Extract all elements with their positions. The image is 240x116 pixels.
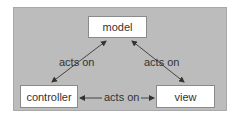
edge-label-controller-view: acts on	[102, 91, 141, 103]
edge-label-controller-model: acts on	[59, 56, 94, 68]
model-node: model	[88, 16, 147, 38]
controller-node: controller	[20, 85, 78, 108]
view-node: view	[156, 85, 215, 108]
edge-label-view-model: acts on	[144, 56, 179, 68]
